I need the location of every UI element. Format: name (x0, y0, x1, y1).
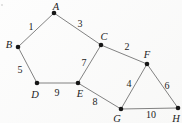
node-label-G: G (113, 113, 121, 124)
edge-weight-F-H: 6 (165, 80, 170, 91)
node-D (35, 81, 40, 86)
node-label-E: E (76, 88, 84, 99)
node-H (176, 106, 181, 111)
edge-weight-C-E: 7 (82, 57, 87, 68)
edge-E-G (78, 83, 121, 109)
node-E (76, 81, 81, 86)
edge-weight-A-B: 1 (29, 21, 34, 32)
edges-layer (18, 13, 178, 109)
node-label-B: B (6, 39, 13, 50)
graph-figure: 13597284610 ABCDEFGH (0, 0, 182, 123)
node-B (16, 45, 21, 50)
edge-weight-D-E: 9 (55, 87, 60, 98)
edge-weight-A-C: 3 (78, 18, 83, 29)
edge-F-H (147, 64, 178, 108)
ink-speck-artifact (1, 4, 3, 6)
node-G (119, 107, 124, 112)
edge-weight-G-H: 10 (146, 109, 156, 120)
node-C (99, 43, 104, 48)
graph-canvas: 13597284610 ABCDEFGH (0, 0, 182, 123)
edge-weight-E-G: 8 (93, 96, 98, 107)
node-label-C: C (100, 31, 108, 42)
weights-layer: 13597284610 (18, 18, 170, 120)
edge-weight-C-F: 2 (125, 41, 130, 52)
edge-A-B (18, 13, 54, 47)
node-label-D: D (30, 89, 39, 100)
node-label-A: A (52, 1, 60, 12)
edge-F-G (121, 64, 147, 109)
node-label-H: H (171, 113, 181, 124)
node-F (145, 62, 150, 67)
edge-weight-F-G: 4 (127, 78, 132, 89)
edge-weight-B-D: 5 (18, 64, 23, 75)
node-label-F: F (143, 49, 151, 60)
